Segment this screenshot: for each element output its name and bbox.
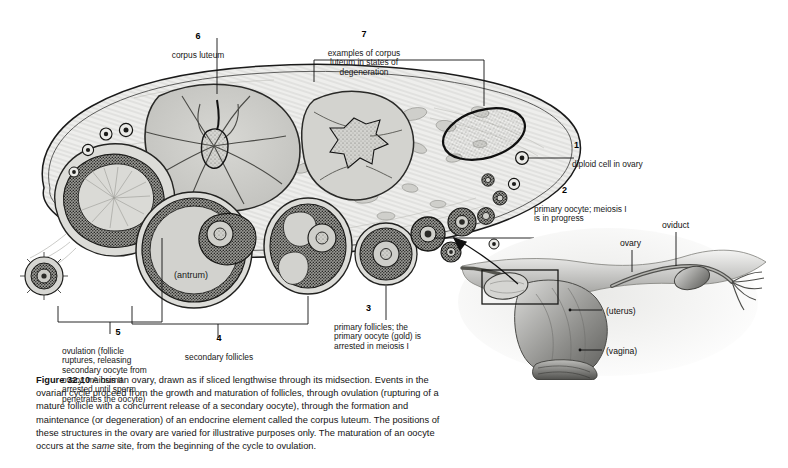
inset-label-ovary: ovary xyxy=(620,238,641,248)
callout-1-number: 1 xyxy=(574,141,722,151)
corpus-luteum-structure xyxy=(145,84,300,211)
callout-1-diploid-cell: 1 diploid cell in ovary xyxy=(572,131,722,169)
callout-3-text: primary follicles; the primary oocyte (g… xyxy=(334,322,421,351)
callout-6-text: corpus luteum xyxy=(172,50,225,60)
callout-7-number: 7 xyxy=(300,30,428,40)
antral-follicle xyxy=(136,192,256,308)
callout-7-text: examples of corpus luteum in states of d… xyxy=(328,48,401,77)
callout-4-text: secondary follicles xyxy=(185,352,253,362)
figure-32-10: 6 corpus luteum 7 examples of corpus lut… xyxy=(0,0,788,468)
released-secondary-oocyte xyxy=(20,252,68,300)
inset-label-uterus: (uterus) xyxy=(606,306,636,316)
magnify-arrow xyxy=(454,238,518,284)
figure-caption-tail: site, from the beginning of the cycle to… xyxy=(115,441,317,451)
callout-5-number: 5 xyxy=(48,328,188,338)
reproductive-tract-inset: oviduct ovary (uterus) (vagina) xyxy=(440,222,788,380)
ovary-highlight-box xyxy=(482,270,558,304)
degenerating-corpus-luteum-b xyxy=(437,99,531,168)
figure-caption: Figure 32.10 A human ovary, drawn as if … xyxy=(36,374,440,453)
callout-6-corpus-luteum: 6 corpus luteum xyxy=(128,22,268,60)
degenerating-corpus-luteum-a xyxy=(302,91,414,199)
inset-label-oviduct: oviduct xyxy=(662,220,689,230)
figure-number: Figure 32.10 xyxy=(36,375,90,385)
figure-caption-emphasis: same xyxy=(92,441,115,451)
secondary-follicle-right xyxy=(264,198,352,294)
primary-follicle-large xyxy=(355,223,417,285)
callout-6-number: 6 xyxy=(128,32,268,42)
figure-caption-body: A human ovary, drawn as if sliced length… xyxy=(36,375,439,451)
inset-label-vagina: (vagina) xyxy=(606,346,637,356)
callout-2-primary-oocyte: 2 primary oocyte; meiosis I is in progre… xyxy=(534,176,704,224)
antrum-label: (antrum) xyxy=(174,271,234,281)
callout-2-number: 2 xyxy=(562,186,704,196)
ovulating-follicle xyxy=(30,144,175,272)
callout-1-text: diploid cell in ovary xyxy=(572,159,643,169)
callout-7-degeneration: 7 examples of corpus luteum in states of… xyxy=(300,20,428,78)
callout-2-text: primary oocyte; meiosis I is in progress xyxy=(534,204,627,224)
